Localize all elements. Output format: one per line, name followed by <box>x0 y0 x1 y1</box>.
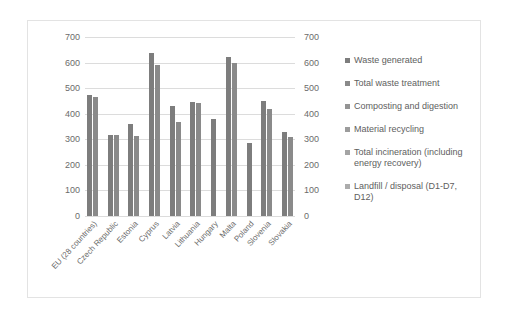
x-axis-labels: EU (28 countries)Czech RepublicEstoniaCy… <box>85 220 295 298</box>
bar-series-container <box>85 37 295 216</box>
bar-group[interactable] <box>128 37 139 216</box>
bar[interactable] <box>196 103 201 216</box>
y-tick-label: 500 <box>304 84 319 93</box>
y-tick-label: 200 <box>304 161 319 170</box>
bar[interactable] <box>170 106 175 216</box>
bar[interactable] <box>261 101 266 216</box>
legend-item[interactable]: Landfill / disposal (D1-D7, D12) <box>345 181 475 203</box>
y-tick-label: 500 <box>65 84 80 93</box>
y-tick-label: 300 <box>304 135 319 144</box>
bar[interactable] <box>176 122 181 216</box>
y-tick-label: 700 <box>65 33 80 42</box>
bar[interactable] <box>282 132 287 216</box>
bar-group[interactable] <box>149 37 160 216</box>
legend-item-label: Total waste treatment <box>354 78 440 89</box>
y-tick-label: 600 <box>65 59 80 68</box>
bar-group[interactable] <box>247 37 252 216</box>
legend-swatch-icon <box>345 81 350 86</box>
bar[interactable] <box>267 109 272 216</box>
plot-area <box>85 37 295 216</box>
legend-item[interactable]: Total incineration (including energy rec… <box>345 147 475 169</box>
legend-item[interactable]: Total waste treatment <box>345 78 475 89</box>
bar[interactable] <box>190 102 195 216</box>
bar[interactable] <box>87 95 92 216</box>
bar[interactable] <box>226 57 231 216</box>
legend-item[interactable]: Waste generated <box>345 55 475 66</box>
bar[interactable] <box>93 97 98 216</box>
bar-group[interactable] <box>190 37 201 216</box>
legend-item-label: Material recycling <box>354 124 424 135</box>
y-tick-label: 100 <box>304 186 319 195</box>
legend-swatch-icon <box>345 104 350 109</box>
bar-group[interactable] <box>226 37 237 216</box>
y-tick-label: 400 <box>65 110 80 119</box>
bar[interactable] <box>149 53 154 216</box>
chart-legend: Waste generatedTotal waste treatmentComp… <box>345 55 475 215</box>
legend-item-label: Total incineration (including energy rec… <box>354 147 475 169</box>
legend-swatch-icon <box>345 58 350 63</box>
legend-item-label: Composting and digestion <box>354 101 458 112</box>
y-tick-label: 0 <box>304 212 309 221</box>
legend-item[interactable]: Material recycling <box>345 124 475 135</box>
chart-frame: 7006005004003002001000 70060050040030020… <box>27 20 481 298</box>
bar[interactable] <box>288 137 293 216</box>
y-axis-right: 7006005004003002001000 <box>304 37 334 216</box>
bar[interactable] <box>211 119 216 216</box>
legend-item-label: Landfill / disposal (D1-D7, D12) <box>354 181 475 203</box>
y-axis-left: 7006005004003002001000 <box>38 37 80 216</box>
legend-swatch-icon <box>345 184 350 189</box>
bar-group[interactable] <box>87 37 98 216</box>
bar[interactable] <box>134 136 139 216</box>
bar[interactable] <box>155 65 160 216</box>
bar[interactable] <box>247 143 252 216</box>
legend-swatch-icon <box>345 150 350 155</box>
y-tick-label: 600 <box>304 59 319 68</box>
y-tick-label: 100 <box>65 186 80 195</box>
legend-item[interactable]: Composting and digestion <box>345 101 475 112</box>
bar[interactable] <box>232 63 237 216</box>
legend-swatch-icon <box>345 127 350 132</box>
bar-group[interactable] <box>170 37 181 216</box>
bar-group[interactable] <box>261 37 272 216</box>
y-tick-label: 0 <box>75 212 80 221</box>
bar[interactable] <box>128 124 133 216</box>
y-tick-label: 200 <box>65 161 80 170</box>
gridline <box>85 216 295 217</box>
bar-group[interactable] <box>108 37 119 216</box>
legend-item-label: Waste generated <box>354 55 422 66</box>
y-tick-label: 400 <box>304 110 319 119</box>
y-tick-label: 700 <box>304 33 319 42</box>
bar-group[interactable] <box>211 37 216 216</box>
bar[interactable] <box>114 135 119 216</box>
y-tick-label: 300 <box>65 135 80 144</box>
bar[interactable] <box>108 135 113 216</box>
bar-group[interactable] <box>282 37 293 216</box>
